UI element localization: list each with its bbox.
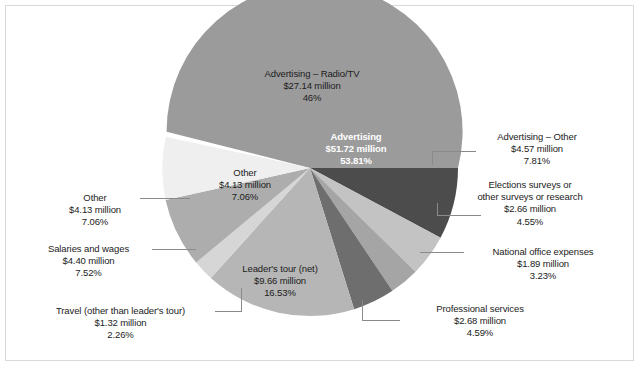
label-advertising-other: Advertising – Other $4.57 million 7.81% bbox=[472, 131, 602, 168]
label-other-outside: Other $4.13 million 7.06% bbox=[45, 192, 145, 229]
label-advertising-other-percent: 7.81% bbox=[472, 155, 602, 167]
label-national-office-amount: $1.89 million bbox=[468, 258, 618, 270]
leader-line-national-office bbox=[420, 252, 464, 253]
label-salaries-name: Salaries and wages bbox=[26, 243, 151, 255]
label-other-inside-amount: $4.13 million bbox=[195, 179, 295, 191]
label-advertising-other-name: Advertising – Other bbox=[472, 131, 602, 143]
label-radio-tv-amount: $27.14 million bbox=[222, 80, 402, 92]
label-radio-tv-name: Advertising – Radio/TV bbox=[222, 68, 402, 80]
label-other-inside-percent: 7.06% bbox=[195, 191, 295, 203]
label-national-office-percent: 3.23% bbox=[468, 270, 618, 282]
label-elections-surveys-amount: $2.66 million bbox=[450, 203, 610, 215]
label-other-inside-name: Other bbox=[195, 167, 295, 179]
label-other-outside-amount: $4.13 million bbox=[45, 204, 145, 216]
label-national-office-expenses: National office expenses $1.89 million 3… bbox=[468, 246, 618, 283]
label-advertising-group-name: Advertising bbox=[296, 131, 416, 143]
label-other-outside-percent: 7.06% bbox=[45, 216, 145, 228]
label-travel-amount: $1.32 million bbox=[28, 317, 213, 329]
label-radio-tv-percent: 46% bbox=[222, 92, 402, 104]
label-travel-percent: 2.26% bbox=[28, 329, 213, 341]
label-leaders-tour-percent: 16.53% bbox=[205, 287, 355, 299]
label-advertising-other-amount: $4.57 million bbox=[472, 143, 602, 155]
label-salaries-and-wages: Salaries and wages $4.40 million 7.52% bbox=[26, 243, 151, 280]
label-advertising-group-amount: $51.72 million bbox=[296, 143, 416, 155]
leader-line-advertising-other bbox=[432, 151, 476, 152]
label-other-inside: Other $4.13 million 7.06% bbox=[195, 167, 295, 204]
label-elections-surveys: Elections surveys or other surveys or re… bbox=[450, 179, 610, 228]
label-leaders-tour-amount: $9.66 million bbox=[205, 275, 355, 287]
pie-chart: Advertising – Radio/TV $27.14 million 46… bbox=[0, 0, 641, 368]
label-elections-surveys-percent: 4.55% bbox=[450, 216, 610, 228]
leader-line-professional-services-elbow bbox=[362, 300, 363, 320]
label-professional-services-name: Professional services bbox=[405, 303, 555, 315]
label-advertising-radio-tv: Advertising – Radio/TV $27.14 million 46… bbox=[222, 68, 402, 105]
label-professional-services: Professional services $2.68 million 4.59… bbox=[405, 303, 555, 340]
leader-line-other bbox=[140, 198, 190, 199]
leader-line-salaries bbox=[152, 249, 196, 250]
label-professional-services-amount: $2.68 million bbox=[405, 315, 555, 327]
label-professional-services-percent: 4.59% bbox=[405, 327, 555, 339]
label-other-outside-name: Other bbox=[45, 192, 145, 204]
label-salaries-amount: $4.40 million bbox=[26, 255, 151, 267]
label-advertising-group-percent: 53.81% bbox=[296, 155, 416, 167]
label-leaders-tour: Leader's tour (net) $9.66 million 16.53% bbox=[205, 263, 355, 300]
label-travel: Travel (other than leader's tour) $1.32 … bbox=[28, 305, 213, 342]
label-advertising-group: Advertising $51.72 million 53.81% bbox=[296, 131, 416, 168]
leader-line-advertising-other-elbow bbox=[432, 151, 433, 165]
label-leaders-tour-name: Leader's tour (net) bbox=[205, 263, 355, 275]
leader-line-elections-surveys-elbow bbox=[437, 203, 438, 216]
label-elections-surveys-name-1: Elections surveys or bbox=[450, 179, 610, 191]
leader-line-travel bbox=[215, 311, 242, 312]
label-travel-name: Travel (other than leader's tour) bbox=[28, 305, 213, 317]
label-national-office-name: National office expenses bbox=[468, 246, 618, 258]
label-salaries-percent: 7.52% bbox=[26, 267, 151, 279]
label-elections-surveys-name-2: other surveys or research bbox=[450, 191, 610, 203]
leader-line-professional-services bbox=[362, 320, 400, 321]
